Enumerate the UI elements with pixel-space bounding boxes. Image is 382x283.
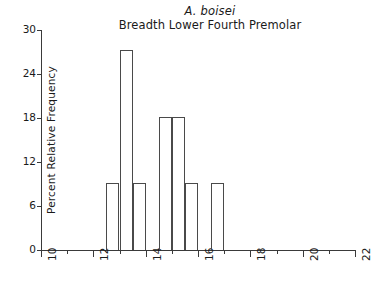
y-tick-label: 30 <box>23 23 36 35</box>
histogram-figure: A. boisei Breadth Lower Fourth Premolar … <box>0 0 382 283</box>
plot-area: 0612182430 10121416182022 <box>41 30 355 250</box>
x-tick-minor <box>67 251 68 254</box>
histogram-bar <box>159 117 172 250</box>
histogram-bar <box>211 183 224 250</box>
histogram-bar <box>185 183 198 250</box>
x-tick-minor <box>329 251 330 254</box>
x-tick-major <box>355 251 356 257</box>
x-tick-label: 22 <box>360 248 372 261</box>
x-tick-label: 10 <box>46 248 58 261</box>
histogram-bar <box>106 183 119 250</box>
x-tick-major <box>41 251 42 257</box>
x-tick-major <box>93 251 94 257</box>
y-tick-mark <box>37 206 42 207</box>
histogram-bar <box>120 50 133 250</box>
y-tick-label: 24 <box>23 67 36 79</box>
y-tick-mark <box>37 74 42 75</box>
y-tick-label: 18 <box>23 111 36 123</box>
x-tick-minor <box>172 251 173 254</box>
y-tick-mark <box>37 30 42 31</box>
histogram-bar <box>172 117 185 250</box>
chart-title-block: A. boisei Breadth Lower Fourth Premolar <box>60 4 360 33</box>
histogram-bar <box>133 183 146 250</box>
x-tick-minor <box>224 251 225 254</box>
x-tick-major <box>250 251 251 257</box>
x-tick-major <box>198 251 199 257</box>
x-tick-label: 18 <box>255 248 267 261</box>
x-tick-major <box>146 251 147 257</box>
chart-subtitle-species: A. boisei <box>60 4 360 18</box>
x-tick-minor <box>120 251 121 254</box>
x-tick-label: 20 <box>308 248 320 261</box>
y-tick-label: 6 <box>29 199 36 211</box>
y-tick-mark <box>37 162 42 163</box>
y-tick-mark <box>37 118 42 119</box>
y-tick-label: 0 <box>29 243 36 255</box>
x-tick-minor <box>277 251 278 254</box>
y-axis-line <box>41 30 42 251</box>
y-tick-label: 12 <box>23 155 36 167</box>
x-tick-major <box>303 251 304 257</box>
